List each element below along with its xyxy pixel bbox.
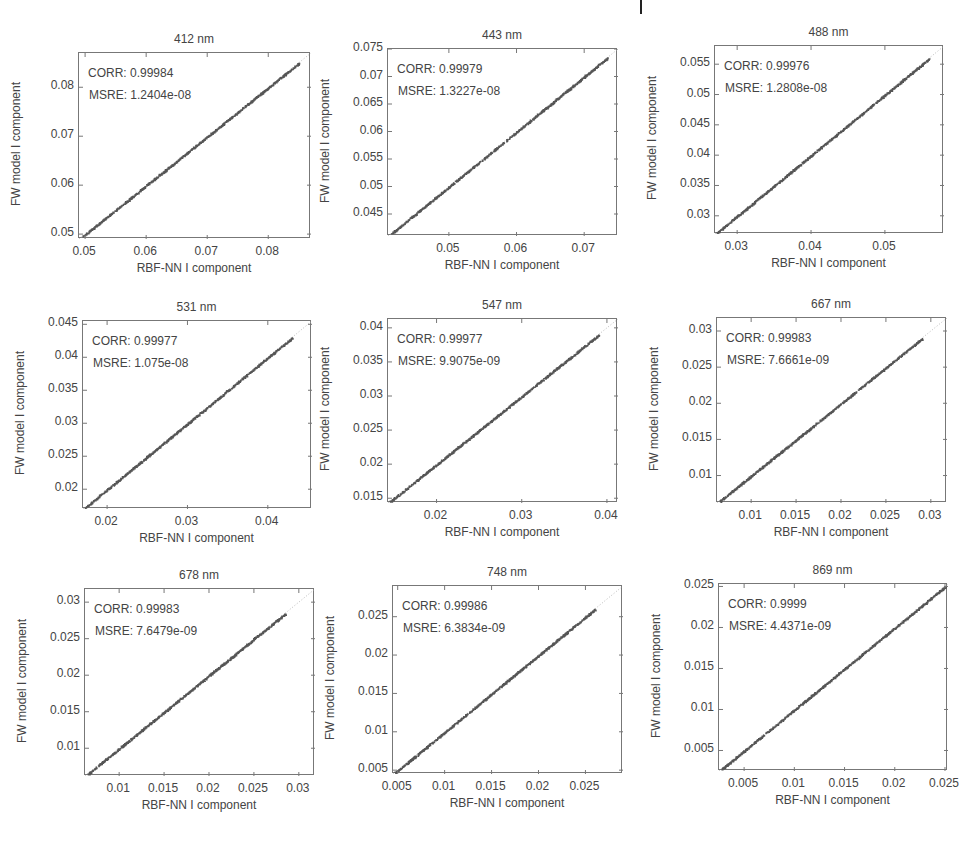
x-tick-label: 0.03	[273, 781, 323, 795]
scatter-points	[717, 318, 947, 503]
x-tick-label: 0.05	[59, 244, 109, 258]
y-tick-label: 0.03	[666, 207, 710, 221]
y-tick-label: 0.01	[668, 467, 712, 481]
y-tick-label: 0.01	[344, 723, 388, 737]
y-tick-label: 0.02	[339, 455, 383, 469]
x-tick-label: 0.04	[785, 239, 835, 253]
x-tick-label: 0.07	[558, 241, 608, 255]
corr-annotation: CORR: 0.99977	[92, 334, 177, 348]
x-tick-label: 0.03	[711, 239, 761, 253]
y-axis-label: FW model I component	[647, 339, 661, 479]
corr-annotation: CORR: 0.99977	[397, 332, 482, 346]
stray-mark	[640, 0, 642, 14]
x-tick-label: 0.08	[242, 244, 292, 258]
y-tick-label: 0.065	[339, 95, 383, 109]
x-tick-label: 0.01	[93, 781, 143, 795]
y-tick-label: 0.08	[30, 78, 74, 92]
x-axis-label: RBF-NN I component	[84, 798, 314, 812]
corr-annotation: CORR: 0.99983	[94, 602, 179, 616]
y-axis-label: FW model I component	[9, 74, 23, 214]
x-tick-label: 0.025	[860, 508, 910, 522]
y-tick-label: 0.03	[34, 414, 78, 428]
y-tick-label: 0.005	[670, 741, 714, 755]
y-tick-label: 0.03	[36, 593, 80, 607]
x-tick-label: 0.005	[718, 776, 768, 790]
corr-annotation: CORR: 0.99983	[726, 331, 811, 345]
y-tick-label: 0.07	[339, 68, 383, 82]
plot-area	[387, 48, 617, 235]
x-axis-label: RBF-NN I component	[387, 525, 617, 539]
y-axis-label: FW model I component	[645, 68, 659, 208]
x-axis-label: RBF-NN I component	[718, 793, 947, 807]
y-tick-label: 0.05	[30, 225, 74, 239]
y-axis-label: FW model I component	[323, 608, 337, 748]
panel-title: 531 nm	[82, 300, 311, 314]
y-tick-label: 0.025	[670, 577, 714, 591]
y-tick-label: 0.02	[36, 666, 80, 680]
x-tick-label: 0.02	[869, 776, 919, 790]
y-tick-label: 0.015	[670, 659, 714, 673]
y-tick-label: 0.045	[666, 116, 710, 130]
x-tick-label: 0.05	[859, 239, 909, 253]
y-tick-label: 0.04	[666, 146, 710, 160]
scatter-points	[79, 53, 311, 239]
x-tick-label: 0.02	[183, 781, 233, 795]
y-tick-label: 0.025	[36, 630, 80, 644]
plot-area	[392, 585, 622, 773]
x-axis-label: RBF-NN I component	[716, 525, 946, 539]
msre-annotation: MSRE: 6.3834e-09	[403, 621, 505, 635]
y-axis-label: FW model I component	[649, 606, 663, 746]
x-tick-label: 0.07	[181, 244, 231, 258]
panel-title: 488 nm	[714, 25, 943, 39]
plot-area	[84, 588, 314, 775]
panel-title: 412 nm	[78, 32, 310, 46]
x-tick-label: 0.03	[496, 508, 546, 522]
panel-title: 748 nm	[392, 565, 622, 579]
msre-annotation: MSRE: 7.6479e-09	[95, 624, 197, 638]
y-tick-label: 0.055	[339, 150, 383, 164]
msre-annotation: MSRE: 1.3227e-08	[398, 84, 500, 98]
x-tick-label: 0.015	[819, 776, 869, 790]
y-tick-label: 0.07	[30, 127, 74, 141]
x-tick-label: 0.005	[372, 779, 422, 793]
y-tick-label: 0.075	[339, 40, 383, 54]
y-axis-label: FW model I component	[318, 339, 332, 479]
x-tick-label: 0.01	[768, 776, 818, 790]
y-tick-label: 0.05	[339, 178, 383, 192]
x-axis-label: RBF-NN I component	[392, 796, 622, 810]
x-tick-label: 0.03	[905, 508, 955, 522]
x-tick-label: 0.02	[513, 779, 563, 793]
x-tick-label: 0.06	[491, 241, 541, 255]
scatter-points	[388, 319, 618, 503]
scatter-points	[83, 321, 312, 509]
y-tick-label: 0.045	[339, 205, 383, 219]
panel-title: 443 nm	[387, 28, 617, 42]
msre-annotation: MSRE: 9.9075e-09	[398, 354, 500, 368]
y-tick-label: 0.015	[339, 489, 383, 503]
y-tick-label: 0.035	[666, 176, 710, 190]
x-tick-label: 0.04	[242, 514, 292, 528]
y-tick-label: 0.03	[339, 387, 383, 401]
y-tick-label: 0.015	[36, 703, 80, 717]
x-tick-label: 0.025	[228, 781, 278, 795]
y-tick-label: 0.01	[36, 739, 80, 753]
y-axis-label: FW model I component	[318, 71, 332, 211]
y-axis-label: FW model I component	[13, 343, 27, 483]
x-tick-label: 0.01	[419, 779, 469, 793]
y-tick-label: 0.025	[668, 358, 712, 372]
x-tick-label: 0.03	[161, 514, 211, 528]
plot-area	[82, 320, 311, 508]
y-tick-label: 0.03	[668, 322, 712, 336]
corr-annotation: CORR: 0.99979	[397, 62, 482, 76]
x-tick-label: 0.05	[423, 241, 473, 255]
panel-title: 547 nm	[387, 298, 617, 312]
x-axis-label: RBF-NN I component	[387, 258, 617, 272]
y-tick-label: 0.025	[339, 421, 383, 435]
msre-annotation: MSRE: 1.075e-08	[93, 356, 188, 370]
y-tick-label: 0.05	[666, 86, 710, 100]
panel-title: 869 nm	[718, 563, 947, 577]
x-tick-label: 0.06	[120, 244, 170, 258]
plot-area	[718, 583, 947, 770]
x-tick-label: 0.015	[466, 779, 516, 793]
scatter-points	[393, 586, 623, 774]
